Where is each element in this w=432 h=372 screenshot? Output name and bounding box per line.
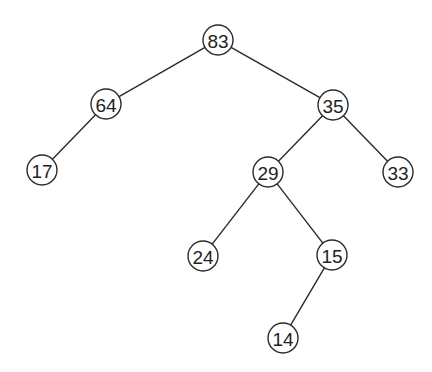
node-label: 29 xyxy=(257,163,278,184)
node-label: 17 xyxy=(31,161,52,182)
node-label: 35 xyxy=(322,96,343,117)
tree-node-15: 15 xyxy=(317,240,347,270)
node-layer: 836435172933241514 xyxy=(27,25,413,353)
tree-node-29: 29 xyxy=(253,157,283,187)
tree-node-33: 33 xyxy=(383,157,413,187)
tree-canvas: 836435172933241514 xyxy=(0,0,432,372)
node-label: 24 xyxy=(192,247,214,268)
node-label: 33 xyxy=(387,163,408,184)
tree-node-24: 24 xyxy=(188,241,218,271)
edge-29-15 xyxy=(277,184,323,243)
tree-node-64: 64 xyxy=(91,89,121,119)
node-label: 64 xyxy=(95,95,117,116)
node-label: 83 xyxy=(207,31,228,52)
tree-diagram: 836435172933241514 xyxy=(0,0,432,372)
node-label: 14 xyxy=(272,329,294,350)
tree-node-14: 14 xyxy=(268,323,298,353)
edge-35-29 xyxy=(278,116,322,161)
edge-83-35 xyxy=(231,47,320,97)
edge-15-14 xyxy=(291,268,325,325)
tree-node-83: 83 xyxy=(203,25,233,55)
tree-node-35: 35 xyxy=(318,90,348,120)
tree-node-17: 17 xyxy=(27,155,57,185)
edge-35-33 xyxy=(343,116,387,161)
edge-83-64 xyxy=(119,47,205,96)
edge-64-17 xyxy=(52,115,95,159)
edge-29-24 xyxy=(212,184,259,244)
node-label: 15 xyxy=(321,246,342,267)
